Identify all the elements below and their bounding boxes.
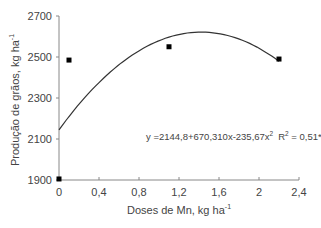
x-tick-label: 2,4	[291, 186, 306, 198]
data-points	[57, 44, 282, 181]
y-tick-label: 2100	[28, 133, 52, 145]
chart: 19002100230025002700 00,40,81,21,622,4 D…	[0, 0, 321, 228]
x-tick-label: 0	[56, 186, 62, 198]
data-point	[277, 57, 282, 62]
y-axis-ticks: 19002100230025002700	[28, 10, 59, 186]
x-tick-label: 2	[256, 186, 262, 198]
x-axis-title: Doses de Mn, kg ha-1	[127, 203, 231, 216]
y-axis-title: Produção de grãos, kg ha-1	[8, 34, 21, 166]
x-tick-label: 1,2	[171, 186, 186, 198]
data-point	[57, 176, 62, 181]
y-tick-label: 2700	[28, 10, 52, 22]
x-tick-label: 0,8	[131, 186, 146, 198]
regression-equation: y =2144,8+670,310x-235,67x2R2 = 0,51*	[146, 130, 321, 142]
x-tick-label: 1,6	[211, 186, 226, 198]
data-point	[67, 58, 72, 63]
data-point	[167, 44, 172, 49]
y-tick-label: 2500	[28, 51, 52, 63]
y-tick-label: 2300	[28, 92, 52, 104]
x-tick-label: 0,4	[91, 186, 106, 198]
y-tick-label: 1900	[28, 174, 52, 186]
axes	[59, 16, 299, 180]
